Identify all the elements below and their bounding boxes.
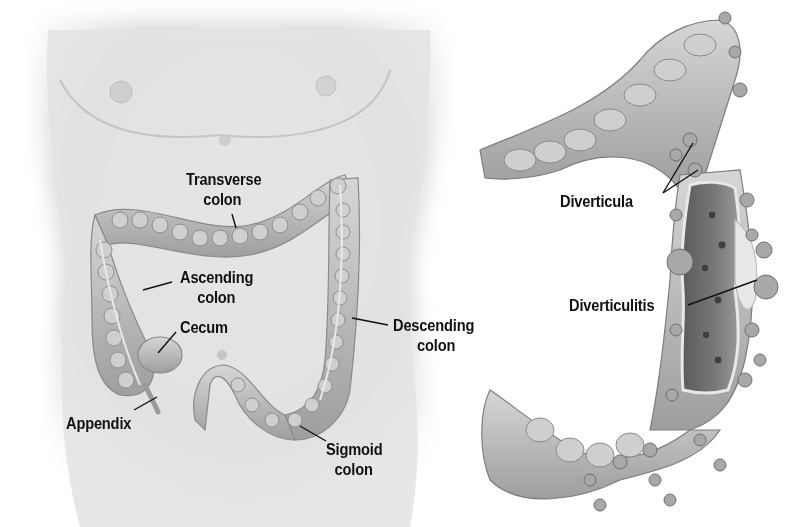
label-line: Transverse xyxy=(186,170,262,190)
label-diverticulitis: Diverticulitis xyxy=(569,296,654,316)
label-ascending-colon: Ascending colon xyxy=(180,268,253,308)
label-line: Diverticula xyxy=(560,192,633,212)
label-line: Appendix xyxy=(66,414,131,434)
label-cecum: Cecum xyxy=(180,318,228,338)
label-transverse-colon: Transverse colon xyxy=(186,170,262,210)
label-line: colon xyxy=(393,336,474,356)
colon-right xyxy=(480,12,778,511)
label-descending-colon: Descending colon xyxy=(393,316,474,356)
label-appendix: Appendix xyxy=(66,414,131,434)
label-line: Sigmoid xyxy=(326,440,382,460)
label-line: colon xyxy=(326,460,382,480)
label-line: Descending xyxy=(393,316,474,336)
illustration xyxy=(0,0,811,527)
label-line: colon xyxy=(186,190,262,210)
label-sigmoid-colon: Sigmoid colon xyxy=(326,440,382,480)
colon-anatomy-figure: Transverse colon Ascending colon Cecum A… xyxy=(0,0,811,527)
label-line: colon xyxy=(180,288,253,308)
label-diverticula: Diverticula xyxy=(560,192,633,212)
label-line: Cecum xyxy=(180,318,228,338)
label-line: Diverticulitis xyxy=(569,296,654,316)
label-line: Ascending xyxy=(180,268,253,288)
